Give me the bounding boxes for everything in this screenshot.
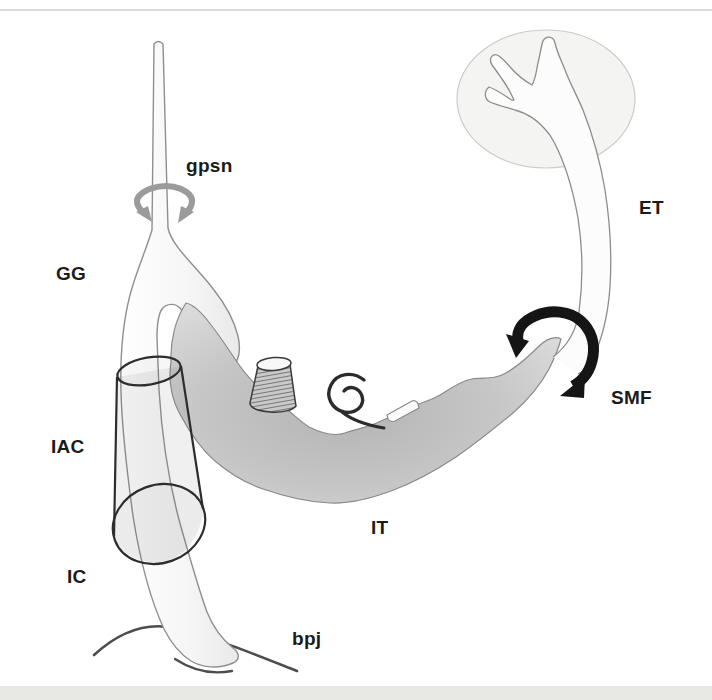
label-smf: SMF: [611, 387, 652, 408]
label-et: ET: [639, 197, 664, 218]
label-it: IT: [371, 517, 389, 538]
label-gg: GG: [56, 263, 86, 284]
label-gpsn: gpsn: [186, 155, 233, 176]
figure-page: gpsn GG IAC IC bpj IT SMF ET: [0, 0, 712, 700]
label-bpj: bpj: [292, 628, 321, 649]
frame-bottom-band: [0, 686, 712, 700]
label-iac: IAC: [51, 436, 85, 457]
label-ic: IC: [67, 566, 87, 587]
facial-nerve-diagram: gpsn GG IAC IC bpj IT SMF ET: [0, 0, 712, 700]
